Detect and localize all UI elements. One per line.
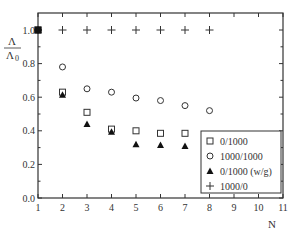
y-tick-label: 0.4 <box>23 125 36 136</box>
legend: 0/10001000/10000/1000 (w/g)1000/0 <box>201 131 281 193</box>
y-tick-label: 0.2 <box>23 159 36 170</box>
y-tick-label: 0.0 <box>23 193 36 204</box>
data-point <box>108 128 115 135</box>
data-point <box>182 103 188 109</box>
data-point <box>108 26 116 34</box>
x-tick-label: 5 <box>134 202 139 213</box>
legend-label: 0/1000 <box>220 136 248 147</box>
y-tick-label: 1.0 <box>23 25 36 36</box>
x-tick-label: 4 <box>109 202 114 213</box>
x-tick-label: 1 <box>36 202 41 213</box>
legend-label: 1000/0 <box>220 181 248 192</box>
x-tick-label: 6 <box>158 202 163 213</box>
data-point <box>83 26 91 34</box>
data-point <box>109 89 115 95</box>
data-marks <box>34 26 214 149</box>
data-point <box>133 95 139 101</box>
data-point <box>84 121 91 128</box>
x-tick-label: 2 <box>60 202 65 213</box>
x-tick-label: 11 <box>278 202 288 213</box>
legend-label: 0/1000 (w/g) <box>220 166 272 178</box>
start-point-marker <box>35 27 42 34</box>
data-point <box>84 109 90 115</box>
data-point <box>59 91 66 98</box>
data-point <box>182 130 188 136</box>
x-tick-label: 3 <box>85 202 90 213</box>
data-point <box>158 130 164 136</box>
y-axis-label-denominator-subscript: 0 <box>15 54 19 63</box>
data-point <box>206 26 214 34</box>
data-point <box>207 108 213 114</box>
data-point <box>133 128 139 134</box>
y-axis-label-numerator: Λ <box>8 35 16 47</box>
data-point <box>133 141 140 148</box>
data-point <box>132 26 140 34</box>
y-tick-label: 0.6 <box>23 92 36 103</box>
x-tick-label: 7 <box>183 202 188 213</box>
data-point <box>84 86 90 92</box>
x-tick-label: 9 <box>232 202 237 213</box>
series-0-1000-w-g- <box>35 27 189 149</box>
y-axis-label-denominator: Λ <box>6 49 14 61</box>
series-1000-1000 <box>35 27 213 114</box>
data-point <box>157 26 165 34</box>
data-point <box>59 26 67 34</box>
y-tick-label: 0.8 <box>23 58 36 69</box>
data-point <box>158 98 164 104</box>
legend-label: 1000/1000 <box>220 151 263 162</box>
series-0-1000 <box>35 27 188 136</box>
data-point <box>157 142 164 149</box>
y-axis-label: Λ Λ 0 <box>4 35 21 63</box>
x-tick-label: 10 <box>254 202 264 213</box>
x-axis-label: N <box>268 218 276 230</box>
data-point <box>182 142 189 149</box>
data-point <box>181 26 189 34</box>
series-1000-0 <box>34 26 214 34</box>
x-tick-label: 8 <box>207 202 212 213</box>
chart: 1234567891011 0.00.20.40.60.81.0 Λ Λ 0 N… <box>0 0 299 240</box>
data-point <box>60 64 66 70</box>
